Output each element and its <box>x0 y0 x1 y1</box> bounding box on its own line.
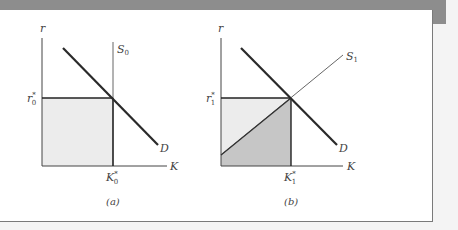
k-star-label-a: K*0 <box>105 170 118 186</box>
demand-label-a: D <box>159 142 169 155</box>
y-axis-label-b: r <box>218 22 224 35</box>
k-star-label-b: K*1 <box>283 170 296 186</box>
x-axis-label-b: K <box>346 160 356 173</box>
x-axis-label-a: K <box>169 160 179 173</box>
shaded-area-a <box>42 98 113 166</box>
economic-rent-diagram: r S0 D K r*0 K*0 (a) r S1 D K r*1 K*1 (b… <box>0 0 458 230</box>
supply-label-b: S1 <box>346 50 358 64</box>
panel-a: r S0 D K r*0 K*0 (a) <box>27 22 179 207</box>
demand-label-b: D <box>338 142 348 155</box>
y-axis-label-a: r <box>40 22 46 35</box>
r-star-label-a: r*0 <box>27 91 36 107</box>
r-star-label-b: r*1 <box>206 91 215 107</box>
caption-b: (b) <box>284 196 298 207</box>
caption-a: (a) <box>106 196 120 207</box>
supply-label-a: S0 <box>117 43 129 57</box>
panel-b: r S1 D K r*1 K*1 (b) <box>206 22 358 207</box>
